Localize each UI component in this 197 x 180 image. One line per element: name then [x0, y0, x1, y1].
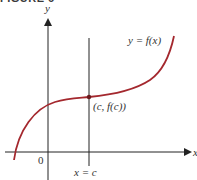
x-axis-label: x — [192, 146, 197, 158]
point-c-fc — [87, 95, 91, 99]
vertical-line-label: x = c — [73, 166, 97, 178]
y-axis-label: y — [44, 2, 50, 14]
function-graph: y x 0 y = f(x) (c, f(c)) x = c — [0, 0, 197, 180]
function-curve — [14, 36, 174, 160]
function-label: y = f(x) — [127, 34, 161, 47]
point-label: (c, f(c)) — [93, 100, 126, 113]
origin-label: 0 — [38, 154, 44, 166]
